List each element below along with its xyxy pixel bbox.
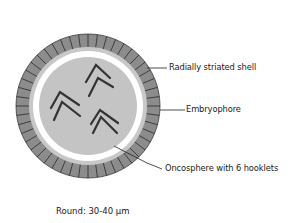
egg-shell [16,34,160,178]
label-radially-striated-shell: Radially striated shell [169,62,256,72]
egg-diagram [0,0,304,223]
size-caption: Round: 30-40 µm [56,206,130,216]
label-embryophore: Embryophore [186,104,241,114]
oncosphere [39,57,137,155]
label-oncosphere: Oncosphere with 6 hooklets [165,163,278,173]
